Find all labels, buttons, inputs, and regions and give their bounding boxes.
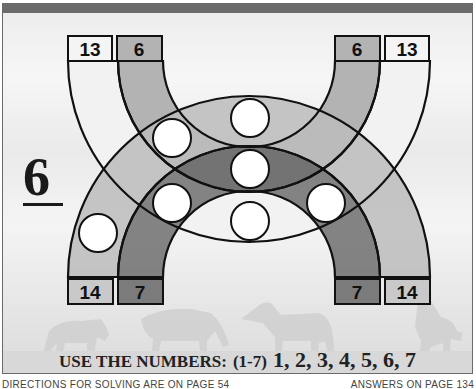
label-bottom-right-14: 14: [396, 282, 418, 303]
instructions: USE THE NUMBERS:(1-7)1, 2, 3, 4, 5, 6, 7: [3, 347, 472, 373]
answer-circle-lower-left[interactable]: [153, 184, 191, 222]
label-top-left-13: 13: [79, 39, 100, 60]
label-bottom-right-7: 7: [352, 282, 363, 303]
answer-circle-bottom-center[interactable]: [231, 202, 269, 240]
label-bottom-left-7: 7: [135, 282, 146, 303]
puzzle-number-underline: [23, 203, 63, 206]
footer-directions: DIRECTIONS FOR SOLVING ARE ON PAGE 54: [2, 379, 229, 389]
answer-circle-top-center[interactable]: [231, 99, 269, 137]
label-top-right-6: 6: [352, 39, 363, 60]
answer-circle-upper-left[interactable]: [153, 119, 191, 157]
label-top-right-13: 13: [396, 39, 417, 60]
answer-circle-lower-right[interactable]: [307, 184, 345, 222]
label-top-left-6: 6: [134, 39, 145, 60]
footer-answers: ANSWERS ON PAGE 134: [351, 379, 474, 389]
answer-circle-far-left[interactable]: [79, 214, 117, 252]
answer-circle-center[interactable]: [231, 150, 269, 188]
puzzle-board: 13 6 6 13 14 7 7 14: [3, 4, 473, 374]
puzzle-number: 6: [23, 150, 50, 204]
puzzle-panel: 13 6 6 13 14 7 7 14 6 USE THE NUMBERS:(1…: [2, 3, 473, 374]
label-bottom-left-14: 14: [79, 282, 101, 303]
instructions-range: (1-7): [233, 352, 267, 371]
instructions-number-list: 1, 2, 3, 4, 5, 6, 7: [273, 347, 416, 372]
instructions-lead: USE THE NUMBERS:: [59, 352, 227, 371]
